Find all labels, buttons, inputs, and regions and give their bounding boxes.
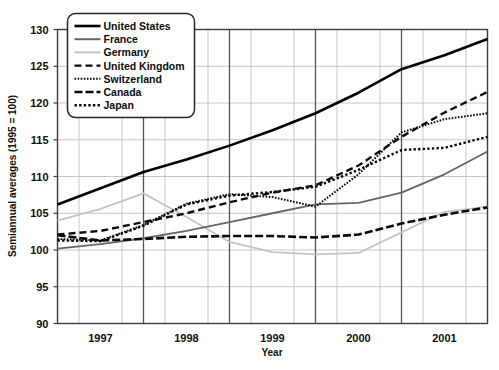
x-axis-label: Year	[261, 347, 282, 358]
line-chart: 1301251201151101051009590 19971998199920…	[0, 0, 499, 370]
legend-label-switzerland: Switzerland	[104, 73, 162, 85]
y-tick-label: 110	[31, 171, 49, 183]
y-tick-label: 115	[31, 134, 49, 146]
legend-label-united-kingdom: United Kingdom	[104, 60, 185, 72]
chart-legend: United StatesFranceGermanyUnited Kingdom…	[68, 14, 195, 118]
y-tick-label: 120	[30, 97, 48, 109]
x-tick-label: 2000	[346, 332, 370, 344]
chart-figure: 1301251201151101051009590 19971998199920…	[0, 0, 499, 370]
x-tick-label: 1999	[260, 332, 284, 344]
y-axis-label: Semiannual averages (1995 = 100)	[7, 95, 18, 257]
legend-label-united-states: United States	[104, 20, 171, 32]
legend-label-japan: Japan	[104, 99, 134, 111]
y-tick-label: 105	[30, 207, 48, 219]
legend-label-canada: Canada	[104, 86, 142, 98]
x-tick-label: 1997	[88, 332, 112, 344]
legend-label-germany: Germany	[104, 46, 150, 58]
x-tick-label: 2001	[432, 332, 456, 344]
y-tick-label: 130	[30, 24, 48, 36]
x-tick-label: 1998	[174, 332, 198, 344]
legend-label-france: France	[104, 33, 139, 45]
y-tick-label: 90	[36, 318, 48, 330]
y-tick-label: 125	[30, 60, 48, 72]
y-tick-label: 95	[36, 281, 48, 293]
y-tick-label: 100	[30, 244, 48, 256]
